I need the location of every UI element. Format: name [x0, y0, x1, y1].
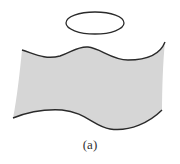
loop-ellipse	[66, 12, 124, 34]
figure-caption: (a)	[0, 137, 180, 153]
